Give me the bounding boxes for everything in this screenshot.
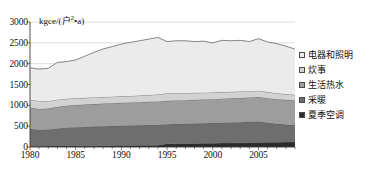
legend-item[interactable]: 生活热水: [299, 77, 375, 92]
unit-prefix: kgce/(: [39, 16, 62, 26]
y-axis-tick-label: 1500: [2, 80, 28, 90]
x-axis-tick-label: 1980: [21, 150, 40, 161]
x-axis-tick-label: 1985: [66, 150, 85, 161]
legend-swatch-icon: [299, 82, 305, 88]
legend-item[interactable]: 电器和照明: [299, 47, 375, 62]
chart-legend: 电器和照明炊事生活热水采暖夏季空调: [299, 47, 375, 122]
legend-item[interactable]: 采暖: [299, 92, 375, 107]
x-axis-ticks: 198019851990199520002005: [0, 148, 375, 164]
y-axis-tick-label: 2500: [2, 38, 28, 48]
legend-item-label: 炊事: [308, 65, 326, 75]
x-axis-tick-label: 1995: [158, 150, 177, 161]
x-axis-tick-label: 1990: [112, 150, 131, 161]
x-axis-tick-label: 2000: [203, 150, 222, 161]
legend-item-label: 生活热水: [308, 80, 344, 90]
y-axis-tick-label: 500: [2, 121, 28, 131]
legend-item-label: 采暖: [308, 95, 326, 105]
legend-swatch-icon: [299, 112, 305, 118]
y-axis-tick-label: 1000: [2, 100, 28, 110]
legend-item-label: 电器和照明: [308, 50, 353, 60]
legend-swatch-icon: [299, 52, 305, 58]
legend-swatch-icon: [299, 97, 305, 103]
legend-item[interactable]: 炊事: [299, 62, 375, 77]
unit-base: 户: [62, 16, 71, 26]
legend-item[interactable]: 夏季空调: [299, 107, 375, 122]
y-axis-tick-label: 3000: [2, 17, 28, 27]
y-axis-tick-label: 2000: [2, 59, 28, 69]
stacked-area-chart: 050010001500200025003000 kgce/(户2•a) 198…: [0, 0, 375, 174]
legend-swatch-icon: [299, 67, 305, 73]
y-axis-unit-label: kgce/(户2•a): [39, 16, 84, 27]
x-axis-tick-label: 2005: [249, 150, 268, 161]
legend-item-label: 夏季空调: [308, 110, 344, 120]
unit-suffix: •a): [74, 16, 84, 26]
